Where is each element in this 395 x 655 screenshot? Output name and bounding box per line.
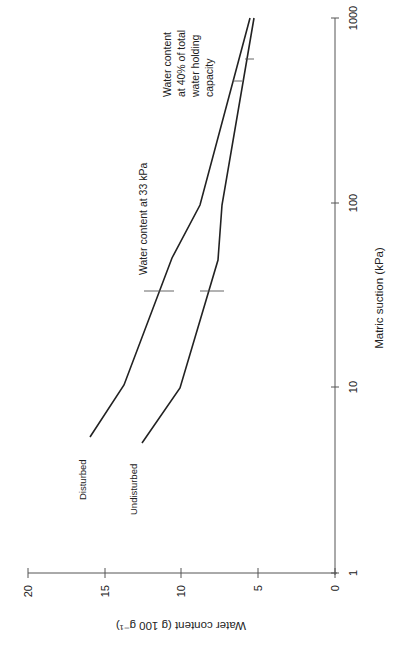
- svg-text:capacity: capacity: [203, 58, 215, 97]
- x-tick-10: 10: [347, 381, 359, 393]
- x-tick-1: 1: [347, 570, 359, 576]
- undisturbed-label: Undisturbed: [128, 464, 139, 515]
- annotation-33kpa: Water content at 33 kPa: [137, 163, 149, 275]
- soil-water-retention-chart: 20 15 10 5 0 Water content (g 100 g⁻¹) 1…: [0, 0, 395, 655]
- water-content-axis: 20 15 10 5 0 Water content (g 100 g⁻¹): [22, 568, 341, 632]
- x-axis-title: Matric suction (kPa): [373, 247, 385, 349]
- annotation-40pct: Water content at 40% of total water hold…: [161, 30, 215, 98]
- y-axis-title: Water content (g 100 g⁻¹): [116, 620, 246, 632]
- disturbed-label: Disturbed: [77, 459, 88, 500]
- y-tick-0: 0: [329, 585, 341, 591]
- svg-text:at 40% of total: at 40% of total: [175, 30, 187, 97]
- y-tick-5: 5: [252, 585, 264, 591]
- matric-suction-axis: 1 10 100 1000 Matric suction (kPa): [331, 6, 385, 576]
- svg-text:water holding: water holding: [189, 34, 201, 98]
- y-tick-20: 20: [22, 585, 34, 597]
- y-tick-10: 10: [175, 585, 187, 597]
- y-tick-15: 15: [99, 585, 111, 597]
- svg-text:Water content: Water content: [161, 32, 173, 97]
- x-tick-100: 100: [347, 194, 359, 212]
- x-tick-1000: 1000: [347, 6, 359, 30]
